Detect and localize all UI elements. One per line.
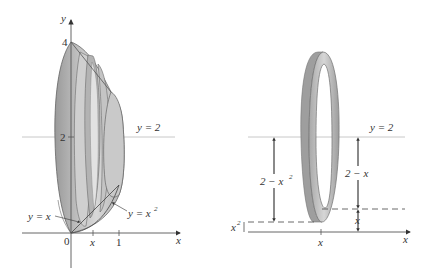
tick-label-1: 1 <box>116 236 122 248</box>
inner-radius-label: 2 − x <box>345 167 368 179</box>
outer-radius-label: 2 − x <box>260 175 283 187</box>
origin-label: 0 <box>64 235 70 247</box>
end-cap-ellipse <box>104 92 125 197</box>
label-y-equals-x-squared: y = x <box>127 207 151 219</box>
washer-method-diagram: y 4 2 0 x 1 x y = 2 y = x y = x 2 <box>0 0 431 278</box>
right-y-equals-2-label: y = 2 <box>369 121 394 133</box>
right-tick-label-x: x <box>317 236 323 248</box>
tick-label-4: 4 <box>62 36 68 48</box>
tick-label-2: 2 <box>60 131 66 143</box>
left-solid-of-revolution <box>22 42 175 233</box>
label-y-equals-x: y = x <box>27 210 51 222</box>
right-labels: y = 2 2 − x 2 2 − x x x 2 x x <box>230 121 408 248</box>
outer-radius-exponent: 2 <box>289 173 293 181</box>
y-equals-2-label: y = 2 <box>136 121 161 133</box>
gap-x-squared-exponent: 2 <box>237 219 241 227</box>
label-parabola-exponent: 2 <box>154 205 158 213</box>
right-washer-figure <box>248 52 405 222</box>
tick-label-x: x <box>89 236 95 248</box>
gap-x-label: x <box>354 214 360 226</box>
right-x-axis-label: x <box>402 233 408 245</box>
x-axis-label: x <box>175 234 181 246</box>
pointer-y-equals-x-squared <box>113 203 127 211</box>
gap-x-squared-label: x <box>230 221 236 233</box>
y-axis-label: y <box>60 12 66 24</box>
